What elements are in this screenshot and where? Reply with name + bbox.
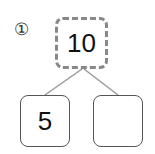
part-box-left: 5 <box>20 95 70 147</box>
problem-number: ① <box>14 21 29 38</box>
part-box-right-empty[interactable] <box>93 95 143 147</box>
whole-box: 10 <box>55 17 108 69</box>
